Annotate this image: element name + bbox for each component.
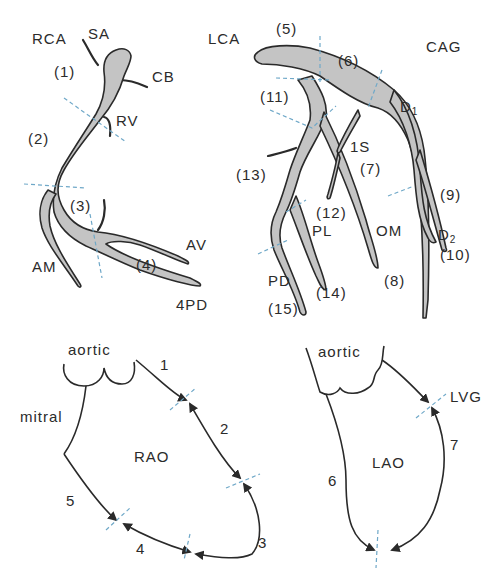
rao-aortic-valve bbox=[64, 362, 135, 386]
am-label: AM bbox=[32, 258, 57, 275]
segment-2: (2) bbox=[28, 130, 49, 147]
twig-branch bbox=[98, 200, 105, 230]
rao-seg-5: 5 bbox=[66, 492, 75, 509]
lao-seg-6: 6 bbox=[328, 472, 337, 489]
4pd-label: 4PD bbox=[176, 296, 208, 313]
lvg-label: LVG bbox=[450, 388, 482, 405]
rao-seg-2: 2 bbox=[220, 420, 229, 437]
cb-branch bbox=[120, 80, 147, 87]
rca-main bbox=[53, 49, 200, 286]
rao-mitral bbox=[64, 386, 86, 454]
segment-1: (1) bbox=[54, 63, 75, 80]
d1-label: D1 bbox=[400, 98, 418, 117]
lao-aortic-label: aortic bbox=[318, 343, 361, 360]
segment-4: (4) bbox=[136, 256, 157, 273]
lao-seg-7: 7 bbox=[450, 436, 459, 453]
om-label: OM bbox=[376, 222, 402, 239]
segment-6: (6) bbox=[338, 52, 359, 69]
sa-label: SA bbox=[88, 25, 110, 42]
lca-label: LCA bbox=[208, 30, 240, 47]
rca-label: RCA bbox=[32, 30, 67, 47]
rv-label: RV bbox=[116, 112, 139, 129]
d2-label: D2 bbox=[438, 226, 456, 245]
rao-mitral-label: mitral bbox=[20, 408, 63, 425]
lao-view-label: LAO bbox=[372, 454, 405, 471]
segment-15: (15) bbox=[268, 300, 299, 317]
segment-8: (8) bbox=[384, 272, 405, 289]
rao-aortic-label: aortic bbox=[68, 341, 111, 358]
segment-9: (9) bbox=[440, 186, 461, 203]
segment-5: (5) bbox=[276, 20, 297, 37]
av-label: AV bbox=[186, 236, 207, 253]
pd-label: PD bbox=[268, 272, 291, 289]
segment-7: (7) bbox=[360, 160, 381, 177]
segment-12: (12) bbox=[316, 204, 347, 221]
rao-seg-3: 3 bbox=[258, 534, 267, 551]
pl-label: PL bbox=[312, 222, 332, 239]
branch-12 bbox=[327, 152, 340, 199]
segment-3: (3) bbox=[70, 197, 91, 214]
sa-branch bbox=[83, 40, 98, 65]
1s-label: 1S bbox=[350, 138, 370, 155]
coronary-angiography-diagram: RCA SA CB RV AM AV 4PD (1) (2) (3) (4) L… bbox=[0, 0, 499, 574]
rao-seg-1: 1 bbox=[160, 356, 169, 373]
segment-14: (14) bbox=[316, 284, 347, 301]
lcx-twig bbox=[268, 148, 296, 156]
segment-11: (11) bbox=[260, 88, 290, 105]
diagram-canvas bbox=[0, 0, 499, 574]
rao-view-label: RAO bbox=[134, 448, 170, 465]
segment-10: (10) bbox=[440, 246, 471, 263]
rao-seg-4: 4 bbox=[136, 540, 145, 557]
segment-13: (13) bbox=[236, 166, 267, 183]
cag-title: CAG bbox=[426, 38, 462, 55]
cb-label: CB bbox=[152, 68, 175, 85]
